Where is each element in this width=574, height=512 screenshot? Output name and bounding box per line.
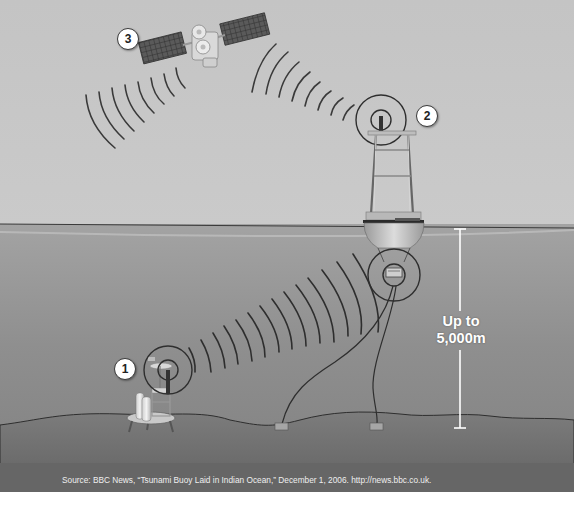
- component-label-buoy: 2: [416, 105, 438, 127]
- diagram-illustration: [0, 0, 574, 512]
- component-label-satellite: 3: [117, 28, 139, 50]
- depth-label-line1: Up to: [424, 313, 498, 330]
- tsunami-buoy-diagram: 3 2 1 Up to 5,000m Source: BBC News, “Ts…: [0, 0, 574, 512]
- depth-label: Up to 5,000m: [424, 313, 498, 347]
- anchor-weight-left: [275, 423, 288, 430]
- depth-label-line2: 5,000m: [424, 330, 498, 347]
- component-label-seabed-sensor: 1: [114, 358, 136, 380]
- source-citation: Source: BBC News, “Tsunami Buoy Laid in …: [62, 475, 431, 485]
- sky-background: [0, 0, 574, 226]
- anchor-weight-right: [370, 423, 383, 430]
